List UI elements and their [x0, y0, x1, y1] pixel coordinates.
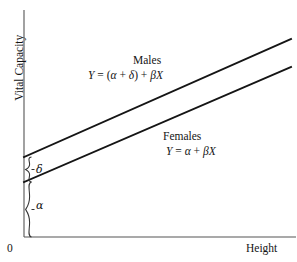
vital-capacity-height-figure: Vital Capacity Height 0 Males Y = (α + δ…: [0, 0, 297, 262]
delta-brace-label: δ: [36, 164, 43, 175]
alpha-brace: [26, 182, 32, 237]
origin-label: 0: [7, 243, 13, 255]
y-axis-title: Vital Capacity: [14, 18, 26, 118]
alpha-brace-label: α: [36, 200, 43, 211]
females-equation: Y = α + βX: [166, 146, 216, 158]
males-series-label: Males: [133, 55, 161, 67]
x-axis-title: Height: [246, 243, 277, 255]
females-regression-line: [24, 67, 291, 182]
females-series-label: Females: [163, 131, 201, 143]
males-equation: Y = (α + δ) + βX: [88, 70, 163, 82]
plot-area: [0, 0, 297, 262]
